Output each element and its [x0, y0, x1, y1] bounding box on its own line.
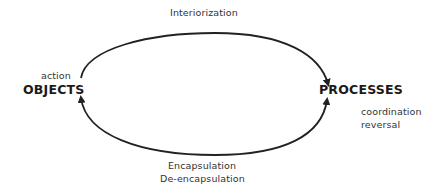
- reversal-label: reversal: [361, 120, 400, 130]
- objects-node: OBJECTS: [23, 84, 84, 97]
- coordination-label: coordination: [361, 107, 422, 117]
- de-encapsulation-arrow: [81, 98, 215, 155]
- encapsulation-label: Encapsulation: [168, 161, 236, 171]
- de-encapsulation-label: De-encapsulation: [160, 174, 245, 184]
- action-label: action: [41, 71, 71, 81]
- interiorization-label: Interiorization: [170, 8, 238, 18]
- encapsulation-arrow: [215, 100, 327, 155]
- interiorization-arrow: [81, 33, 328, 84]
- processes-node: PROCESSES: [319, 84, 403, 97]
